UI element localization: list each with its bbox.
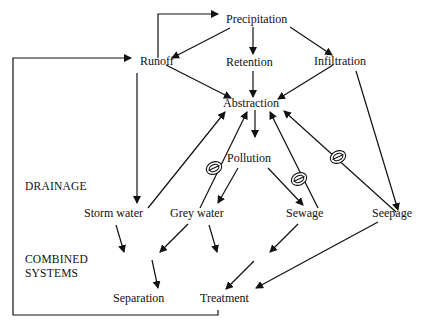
- section-label-drainage: DRAINAGE: [25, 179, 87, 193]
- edge-to-treatment: [226, 261, 254, 289]
- edge-separation-down: [152, 260, 158, 288]
- water-cycle-diagram: Precipitation Runoff Retention Infiltrat…: [0, 0, 426, 323]
- node-precipitation: Precipitation: [226, 12, 287, 26]
- edge-infiltration-seepage: [356, 71, 398, 210]
- section-label-combined: COMBINED: [25, 252, 88, 266]
- edge-greywater-separation: [160, 224, 188, 252]
- no-entry-icon: [328, 148, 348, 166]
- node-seepage: Seepage: [372, 206, 412, 220]
- edge-precipitation-infiltration: [290, 27, 332, 55]
- edge-runoff-abstraction: [166, 65, 231, 98]
- edge-greywater-treatment: [209, 225, 217, 252]
- section-label-systems: SYSTEMS: [25, 266, 78, 280]
- no-entry-icon: [289, 170, 309, 188]
- edge-precipitation-runoff: [172, 28, 230, 58]
- edge-sewage-abstraction: [270, 112, 318, 208]
- node-grey-water: Grey water: [170, 206, 224, 220]
- edge-pollution-greywater: [218, 168, 238, 203]
- node-retention: Retention: [226, 55, 273, 69]
- node-storm-water: Storm water: [84, 206, 143, 220]
- edge-stormwater-abstraction: [148, 112, 225, 208]
- node-separation: Separation: [113, 291, 164, 305]
- edge-sewage-treatment-upper: [270, 224, 298, 252]
- node-pollution: Pollution: [227, 151, 271, 165]
- node-abstraction: Abstraction: [223, 96, 279, 110]
- node-infiltration: Infiltration: [314, 54, 366, 68]
- edge-seepage-treatment: [256, 222, 378, 288]
- node-sewage: Sewage: [286, 206, 323, 220]
- edge-stormwater-separation: [116, 225, 124, 252]
- no-entry-icon: [204, 159, 224, 177]
- edge-runoff-precipitation: [158, 14, 218, 58]
- node-treatment: Treatment: [200, 291, 249, 305]
- edge-infiltration-abstraction: [278, 65, 333, 99]
- node-runoff: Runoff: [140, 54, 174, 68]
